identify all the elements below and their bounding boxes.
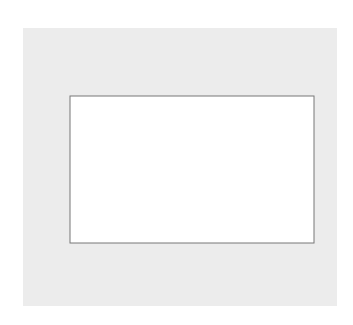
- plot-area: [0, 0, 353, 325]
